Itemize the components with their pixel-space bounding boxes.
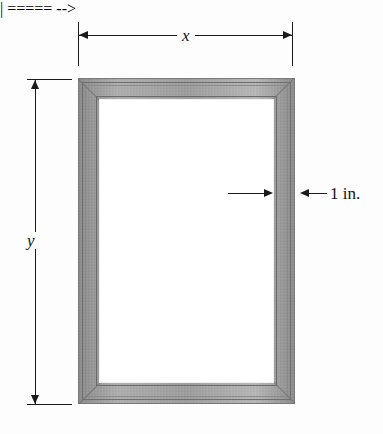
- width-dimension-right-tick: [292, 22, 293, 66]
- height-dimension-top-arrowhead: [31, 80, 39, 89]
- picture-frame-opening: [99, 99, 274, 383]
- picture-frame-figure: | ===== --> x y 1 in.: [0, 0, 383, 434]
- border-callout-inner-arrowhead: [264, 189, 273, 197]
- height-dimension-bottom-tick: [27, 404, 72, 405]
- border-callout-outer-line: [309, 193, 327, 194]
- height-dimension-bottom-arrowhead: [31, 395, 39, 404]
- border-width-label: 1 in.: [330, 185, 360, 202]
- width-dimension-label: x: [177, 27, 195, 44]
- width-dimension-right-arrowhead: [283, 31, 292, 39]
- border-callout-inner-line: [228, 193, 265, 194]
- border-callout-outer-arrowhead: [300, 189, 309, 197]
- height-dimension-label: y: [22, 232, 40, 249]
- width-dimension-left-tick: [78, 22, 79, 66]
- width-dimension-left-arrowhead: [79, 31, 88, 39]
